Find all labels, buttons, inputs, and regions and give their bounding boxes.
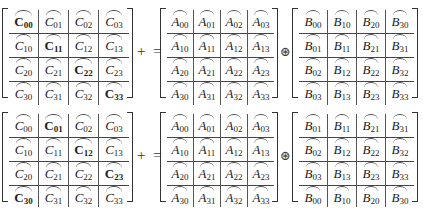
matrix-cell: A10	[167, 34, 194, 58]
matrix-row: B00B10B20B30	[299, 10, 414, 34]
entry: C30	[15, 82, 33, 105]
matrix-row: C00C01C02C03	[9, 10, 129, 34]
wide-hat-accent	[364, 138, 379, 144]
entry: A00	[172, 114, 189, 137]
matrix-cell: B23	[357, 162, 386, 186]
wide-hat-accent	[227, 58, 242, 64]
wide-hat-accent	[393, 34, 408, 40]
wide-hat-accent	[200, 82, 215, 88]
wide-hat-accent	[364, 82, 379, 88]
wide-hat-accent	[173, 58, 188, 64]
wide-hat-accent	[106, 10, 122, 16]
matrix-cell: B02	[299, 58, 328, 82]
entry-subscript: 00	[312, 196, 321, 206]
matrix-cell: C31	[39, 82, 69, 106]
entry-subscript: 01	[312, 124, 321, 134]
entry: C03	[105, 10, 123, 33]
entry-subscript: 01	[206, 20, 215, 30]
entry-subscript: 31	[206, 92, 215, 102]
matrix-c: C00C01C02C03C10C11C12C13C20C21C22C23C30C…	[2, 6, 133, 98]
entry: A30	[172, 186, 189, 207]
entry-subscript: 21	[53, 172, 62, 182]
entry: C32	[75, 186, 93, 207]
wide-hat-accent	[227, 138, 242, 144]
entry: B22	[363, 138, 380, 161]
wide-hat-accent	[16, 138, 32, 144]
matrix-cell: A03	[248, 114, 275, 138]
entry-subscript: 22	[84, 68, 93, 78]
wide-hat-accent	[46, 138, 61, 144]
entry: B00	[305, 186, 322, 207]
entry: A01	[199, 114, 216, 137]
matrix-cell: C03	[99, 114, 130, 138]
wide-hat-accent	[76, 114, 92, 120]
entry: C31	[45, 82, 63, 105]
wide-hat-accent	[173, 82, 188, 88]
matrix-row: B03B13B23B33	[299, 82, 414, 106]
entry-subscript: 00	[179, 20, 188, 30]
wide-hat-accent	[254, 34, 269, 40]
entry-subscript: 32	[233, 196, 242, 206]
entry: C21	[45, 58, 63, 81]
matrix-row: C30C31C32C33	[9, 186, 129, 208]
entry-subscript: 02	[312, 148, 321, 158]
entry: B02	[305, 138, 322, 161]
wide-hat-accent	[200, 186, 215, 192]
entry-subscript: 01	[54, 124, 63, 134]
matrix-cell: A23	[248, 162, 275, 186]
wide-hat-accent	[306, 186, 321, 192]
entry: B32	[392, 138, 409, 161]
entry: A11	[199, 34, 216, 57]
entry-subscript: 01	[206, 124, 215, 134]
entry-subscript: 13	[341, 92, 350, 102]
wide-hat-accent	[46, 82, 62, 88]
matrix-cell: A22	[221, 58, 248, 82]
entry-subscript: 10	[23, 148, 32, 158]
highlighted-entry: C01	[44, 114, 62, 137]
entry: A33	[253, 82, 270, 105]
entry-subscript: 23	[370, 172, 379, 182]
entry: B33	[392, 162, 409, 185]
entry-subscript: 33	[114, 196, 123, 206]
entry: C00	[15, 114, 33, 137]
matrix-cell: A13	[248, 34, 275, 58]
entry: B10	[334, 186, 351, 207]
entry-subscript: 20	[23, 172, 32, 182]
entry-subscript: 03	[114, 20, 123, 30]
entry-symbol: C	[74, 62, 83, 77]
matrix-cell: B31	[386, 114, 415, 138]
matrix-cell: A31	[194, 186, 221, 208]
entry-subscript: 32	[233, 92, 242, 102]
entry: A03	[253, 114, 270, 137]
matrix-cell: B00	[299, 10, 328, 34]
matrix-cell: C32	[69, 82, 99, 106]
entry: B03	[305, 162, 322, 185]
wide-hat-accent	[364, 114, 379, 120]
wide-hat-accent	[254, 114, 269, 120]
wide-hat-accent	[76, 10, 92, 16]
entry-subscript: 12	[341, 68, 350, 78]
wide-hat-accent	[254, 58, 269, 64]
matrix-cell: C22	[69, 162, 99, 186]
matrix-cell: C30	[9, 82, 39, 106]
matrix-cell: A30	[167, 186, 194, 208]
entry: A00	[172, 10, 189, 33]
wide-hat-accent	[46, 34, 62, 40]
wide-hat-accent	[306, 58, 321, 64]
entry-subscript: 30	[24, 196, 33, 206]
matrix-row: C20C21C22C23	[9, 162, 129, 186]
entry: C01	[45, 10, 63, 33]
matrix-row: C20C21C22C23	[9, 58, 129, 82]
entry-subscript: 31	[399, 124, 408, 134]
entry: B31	[392, 34, 409, 57]
wide-hat-accent	[46, 58, 62, 64]
matrix-cell: A13	[248, 138, 275, 162]
entry-subscript: 11	[54, 148, 63, 158]
entry: C22	[75, 162, 93, 185]
highlighted-entry: C22	[74, 58, 92, 81]
entry-symbol: B	[334, 38, 342, 53]
wide-hat-accent	[254, 162, 269, 168]
entry-symbol: A	[199, 38, 207, 53]
wide-hat-accent	[335, 82, 350, 88]
entry-subscript: 12	[341, 148, 350, 158]
